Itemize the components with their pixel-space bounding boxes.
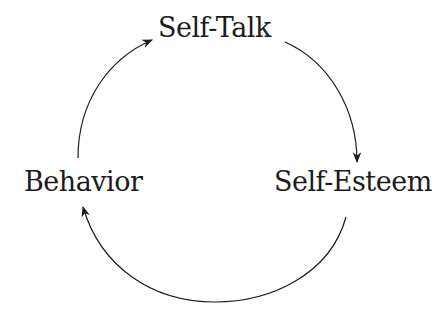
node-self-talk: Self-Talk bbox=[158, 12, 271, 43]
arrow-self-esteem-to-behavior bbox=[83, 207, 346, 302]
cycle-arrows bbox=[0, 0, 441, 323]
node-behavior: Behavior bbox=[24, 166, 142, 197]
arrow-behavior-to-self-talk bbox=[78, 40, 152, 158]
cycle-diagram: Self-Talk Self-Esteem Behavior bbox=[0, 0, 441, 323]
arrow-self-talk-to-self-esteem bbox=[285, 42, 357, 162]
node-self-esteem: Self-Esteem bbox=[274, 166, 432, 197]
